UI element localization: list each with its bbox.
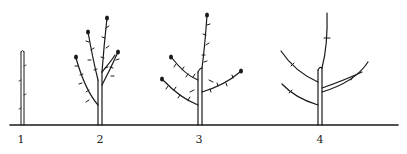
tree-stage-4 [281,13,368,125]
stage-label-1: 1 [11,133,31,146]
stage-label-3: 3 [189,133,209,146]
stage-label-4: 4 [310,133,330,146]
tree-stage-1 [19,51,26,126]
tree-stage-3 [160,13,243,126]
tree-stage-2 [74,16,120,126]
tree-pruning-diagram [0,0,407,154]
stage-label-2: 2 [90,133,110,146]
